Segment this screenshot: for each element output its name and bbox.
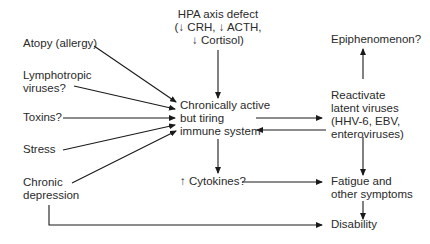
node-reactivate-line-4: enteroviruses): [331, 128, 404, 141]
node-lymphotropic-viruses: Lymphotropic viruses?: [23, 69, 92, 95]
node-depression-line-2: depression: [23, 189, 79, 202]
node-hpa-line-3: ↓ Cortisol): [174, 34, 262, 47]
arrow-depression-to-immune: [72, 131, 176, 183]
node-immune-system: Chronically active but tiring immune sys…: [180, 99, 270, 138]
node-atopy: Atopy (allergy): [23, 37, 97, 50]
node-fatigue-line-1: Fatigue and: [331, 175, 413, 188]
node-depression-line-1: Chronic: [23, 176, 79, 189]
node-chronic-depression: Chronic depression: [23, 176, 79, 202]
node-cytokines: ↑ Cytokines?: [180, 175, 246, 188]
node-cytokines-line-1: ↑ Cytokines?: [180, 175, 246, 188]
node-disability-line-1: Disability: [331, 218, 377, 231]
arrow-depression-to-disability: [49, 205, 322, 225]
node-immune-line-1: Chronically active: [180, 99, 270, 112]
node-immune-line-2: but tiring: [180, 112, 270, 125]
cfs-pathogenesis-diagram: HPA axis defect (↓ CRH, ↓ ACTH, ↓ Cortis…: [0, 0, 430, 244]
node-stress-line-1: Stress: [23, 143, 56, 156]
node-hpa-line-2: (↓ CRH, ↓ ACTH,: [174, 21, 262, 34]
node-toxins-line-1: Toxins?: [23, 111, 62, 124]
node-atopy-line-1: Atopy (allergy): [23, 37, 97, 50]
node-lymphotropic-line-1: Lymphotropic: [23, 69, 92, 82]
arrow-stress-to-immune: [63, 125, 175, 150]
node-disability: Disability: [331, 218, 377, 231]
node-epiphenomenon-line-1: Epiphenomenon?: [331, 33, 421, 46]
node-hpa-line-1: HPA axis defect: [174, 8, 262, 21]
node-lymphotropic-line-2: viruses?: [23, 82, 92, 95]
node-reactivate-line-3: (HHV-6, EBV,: [331, 115, 404, 128]
node-reactivate-latent-viruses: Reactivate latent viruses (HHV-6, EBV, e…: [331, 89, 404, 141]
node-toxins: Toxins?: [23, 111, 62, 124]
node-immune-line-3: immune system: [180, 125, 270, 138]
node-hpa-axis-defect: HPA axis defect (↓ CRH, ↓ ACTH, ↓ Cortis…: [174, 8, 262, 47]
node-epiphenomenon: Epiphenomenon?: [331, 33, 421, 46]
node-reactivate-line-1: Reactivate: [331, 89, 404, 102]
node-fatigue-line-2: other symptoms: [331, 188, 413, 201]
node-fatigue: Fatigue and other symptoms: [331, 175, 413, 201]
node-stress: Stress: [23, 143, 56, 156]
node-reactivate-line-2: latent viruses: [331, 102, 404, 115]
